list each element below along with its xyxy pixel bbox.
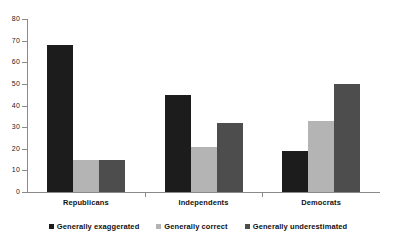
legend-item: Generally underestimated [245, 222, 348, 231]
y-axis-tick [22, 192, 27, 193]
bar [334, 84, 360, 192]
bar [47, 45, 73, 192]
plot-area [27, 19, 380, 192]
legend-item: Generally exaggerated [49, 222, 140, 231]
category-label-republicans: Republicans [27, 198, 145, 207]
bar [308, 121, 334, 192]
x-axis-line [27, 192, 380, 193]
legend-label: Generally underestimated [253, 222, 348, 231]
y-axis-tick-label: 70 [0, 37, 20, 44]
bar [165, 95, 191, 192]
x-axis-separator [262, 192, 263, 197]
y-axis-tick-label: 80 [0, 15, 20, 22]
legend-item: Generally correct [156, 222, 227, 231]
y-axis-tick-label: 50 [0, 80, 20, 87]
bar [73, 160, 99, 192]
legend-label: Generally exaggerated [57, 222, 140, 231]
y-axis-tick-label: 20 [0, 145, 20, 152]
chart-legend: Generally exaggeratedGenerally correctGe… [0, 222, 396, 231]
y-axis-tick-label: 0 [0, 188, 20, 195]
y-axis-tick-label: 10 [0, 166, 20, 173]
y-axis-tick-label: 40 [0, 102, 20, 109]
bar [191, 147, 217, 192]
legend-swatch-icon [156, 224, 161, 229]
x-axis-separator [145, 192, 146, 197]
bar [217, 123, 243, 192]
bar [282, 151, 308, 192]
legend-swatch-icon [245, 224, 250, 229]
category-label-democrats: Democrats [262, 198, 380, 207]
legend-label: Generally correct [164, 222, 227, 231]
y-axis-tick-label: 60 [0, 58, 20, 65]
bar-chart: 01020304050607080 RepublicansIndependent… [0, 0, 396, 241]
category-label-independents: Independents [145, 198, 263, 207]
legend-swatch-icon [49, 224, 54, 229]
y-axis-tick-label: 30 [0, 123, 20, 130]
bar [99, 160, 125, 192]
